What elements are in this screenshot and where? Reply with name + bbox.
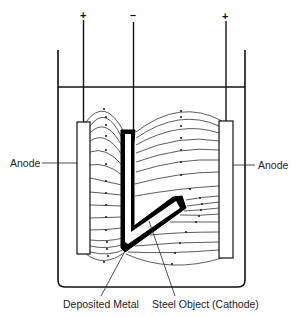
cathode-label: Steel Object (Cathode) <box>152 298 259 310</box>
deposited-metal-label: Deposited Metal <box>63 298 139 310</box>
anode-right-label: Anode <box>258 159 288 171</box>
anode-left-label: Anode <box>10 157 40 169</box>
field-lines-left <box>86 111 125 260</box>
right-anode <box>219 121 233 258</box>
electroplating-diagram <box>0 0 296 317</box>
wires <box>84 20 227 130</box>
left-anode-terminal-sign: + <box>80 10 86 21</box>
left-anode <box>77 122 90 254</box>
right-anode-terminal-sign: + <box>222 11 228 22</box>
cathode-terminal-sign: – <box>130 10 136 21</box>
field-arrows-left <box>103 108 109 263</box>
field-lines-right <box>126 112 222 265</box>
